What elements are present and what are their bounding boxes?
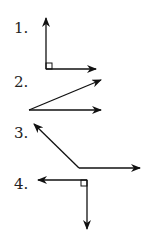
figure-3-label: 3. (14, 124, 28, 142)
figure-2-label: 2. (14, 73, 28, 91)
figure-1: 1. (14, 18, 96, 69)
figure-3: 3. (14, 124, 140, 168)
figure-4: 4. (14, 175, 87, 229)
figure-4-label: 4. (14, 175, 28, 193)
figure-1-right-angle-marker-icon (46, 63, 52, 69)
figure-2-ray-upper-arrow-icon (29, 80, 101, 110)
angle-diagram: 1. 2. 3. 4. (0, 0, 152, 230)
figure-1-label: 1. (14, 19, 28, 37)
figure-3-ray-upper-left-arrow-icon (34, 124, 79, 168)
figure-2: 2. (14, 73, 101, 110)
figure-4-right-angle-marker-icon (81, 180, 87, 186)
